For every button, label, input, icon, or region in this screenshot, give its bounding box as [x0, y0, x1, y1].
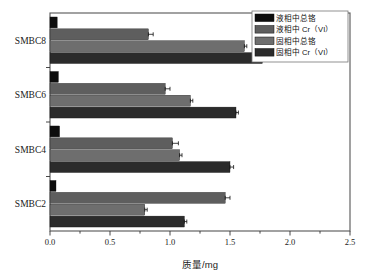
x-tick-label-3: 1.5	[225, 237, 236, 247]
x-tick-label-5: 2.5	[345, 237, 356, 247]
legend-label-4: 固相中 Cr（VI）	[276, 47, 333, 57]
y-tick-label-smbc4: SMBC4	[15, 145, 46, 155]
bar-smbc2-series3	[50, 204, 145, 215]
bar-chart-figure: 0.00.51.01.52.02.5 SMBC8SMBC6SMBC4SMBC2 …	[0, 0, 365, 276]
legend-label-1: 液相中总铬	[276, 13, 316, 23]
legend-swatch-2	[255, 26, 274, 34]
bar-smbc6-series4	[50, 107, 236, 118]
legend-swatch-1	[255, 14, 274, 22]
bar-smbc4-series1	[50, 126, 60, 137]
bar-smbc2-series4	[50, 216, 184, 227]
bar-smbc6-series2	[50, 83, 165, 94]
legend-label-2: 液相中 Cr（VI）	[276, 24, 333, 34]
legend: 液相中总铬液相中 Cr（VI）固相中总铬固相中 Cr（VI）	[252, 11, 348, 62]
x-tick-label-1: 0.5	[105, 237, 116, 247]
x-tick-label-0: 0.0	[45, 237, 56, 247]
bar-smbc8-series2	[50, 29, 148, 40]
x-tick-label-2: 1.0	[165, 237, 176, 247]
legend-label-3: 固相中总铬	[276, 36, 316, 46]
x-tick-label-4: 2.0	[285, 237, 296, 247]
y-tick-label-smbc2: SMBC2	[15, 199, 46, 209]
y-tick-label-smbc8: SMBC8	[15, 36, 46, 46]
legend-swatch-4	[255, 49, 274, 57]
x-axis-title: 质量/mg	[182, 259, 218, 270]
bar-smbc8-series4	[50, 53, 262, 64]
bar-smbc2-series2	[50, 192, 225, 203]
legend-swatch-3	[255, 37, 274, 45]
bar-smbc4-series4	[50, 162, 230, 173]
bar-smbc6-series3	[50, 95, 190, 106]
bar-smbc4-series3	[50, 150, 180, 161]
bar-smbc2-series1	[50, 180, 56, 191]
bar-smbc8-series3	[50, 41, 244, 52]
bar-smbc8-series1	[50, 17, 57, 28]
bar-smbc6-series1	[50, 71, 58, 82]
bar-smbc4-series2	[50, 138, 172, 149]
y-tick-label-smbc6: SMBC6	[15, 90, 46, 100]
